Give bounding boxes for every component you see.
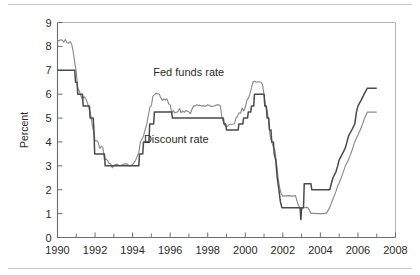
y-tick-label-6: 6	[45, 88, 51, 100]
x-tick-label-1992: 1992	[83, 244, 107, 256]
x-axis-ticks: 1990199219941996199820002002200420062008	[45, 233, 407, 256]
y-tick-label-1: 1	[45, 208, 51, 220]
x-tick-label-2008: 2008	[383, 244, 407, 256]
x-tick-label-1998: 1998	[195, 244, 219, 256]
y-tick-label-0: 0	[45, 232, 51, 244]
x-tick-label-2000: 2000	[233, 244, 257, 256]
y-tick-label-9: 9	[45, 17, 51, 29]
x-tick-label-1996: 1996	[158, 244, 182, 256]
y-tick-label-7: 7	[45, 64, 51, 76]
annotation-discount-rate: Discount rate	[144, 133, 209, 145]
y-tick-label-4: 4	[45, 136, 51, 148]
y-tick-label-8: 8	[45, 40, 51, 52]
x-tick-label-1994: 1994	[120, 244, 144, 256]
line-chart: 0123456789 19901992199419961998200020022…	[0, 0, 420, 275]
x-tick-label-2002: 2002	[271, 244, 295, 256]
annotation-fed-funds-rate: Fed funds rate	[153, 66, 224, 78]
y-tick-label-2: 2	[45, 184, 51, 196]
x-tick-label-2004: 2004	[308, 244, 332, 256]
series-line-discount-rate	[58, 70, 377, 219]
y-axis-ticks: 0123456789	[45, 17, 62, 244]
x-tick-label-1990: 1990	[45, 244, 69, 256]
y-axis-title-text: Percent	[18, 112, 30, 148]
chart-figure: 0123456789 19901992199419961998200020022…	[0, 0, 420, 275]
y-tick-label-5: 5	[45, 112, 51, 124]
y-tick-label-3: 3	[45, 160, 51, 172]
x-tick-label-2006: 2006	[346, 244, 370, 256]
y-axis-title: Percent	[18, 112, 30, 148]
